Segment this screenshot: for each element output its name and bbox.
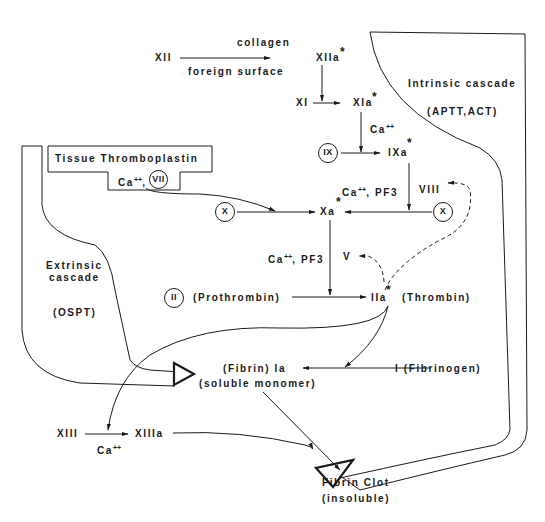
- tissue-cofactor: Ca++,: [118, 174, 147, 189]
- activated-marker: *: [372, 92, 377, 102]
- factor-viii: VIII: [419, 184, 440, 196]
- activated-marker: *: [336, 197, 341, 207]
- factor-x-left-circle: X: [215, 202, 235, 222]
- extrinsic-cascade-title: Extrinsiccascade: [46, 260, 103, 284]
- thrombin-label: (Thrombin): [402, 292, 471, 304]
- factor-xiii: XIII: [57, 428, 78, 440]
- factor-vii-circle: VII: [149, 170, 168, 189]
- collagen-label: collagen: [237, 37, 290, 49]
- factor-v: V: [343, 251, 351, 263]
- ca-pf3-cofactor-1: Ca++, PF3: [342, 184, 398, 199]
- activated-marker: *: [407, 138, 412, 148]
- fibrin-clot-label: Fibrin Clot: [322, 477, 390, 489]
- prothrombin-label: (Prothrombin): [193, 292, 280, 304]
- intrinsic-cascade-title: Intrinsic cascade: [408, 78, 516, 90]
- activated-marker: *: [386, 285, 391, 295]
- insoluble-label: (insoluble): [322, 493, 390, 505]
- xiii-calcium-cofactor: Ca++: [97, 442, 121, 457]
- foreign-surface-label: foreign surface: [188, 66, 284, 78]
- factor-xiia: XIIa: [316, 52, 340, 64]
- factor-xiiia: XIIIa: [135, 428, 164, 440]
- factor-xii: XII: [155, 52, 172, 64]
- intrinsic-cascade-test: (APTT,ACT): [427, 106, 498, 118]
- ca-pf3-cofactor-2: Ca++, PF3: [268, 251, 324, 266]
- fibrinogen-label: I (Fibrinogen): [395, 363, 481, 375]
- extrinsic-open-arrow: [174, 363, 194, 385]
- fibrin-ia-label: (Fibrin) Ia: [223, 363, 286, 375]
- factor-ii-circle: II: [164, 288, 184, 308]
- factor-ix-circle: IX: [318, 143, 338, 163]
- activated-marker: *: [340, 47, 345, 57]
- factor-xi: XI: [296, 97, 309, 109]
- factor-x-right-circle: X: [433, 202, 453, 222]
- factor-ixa: IXa: [388, 147, 408, 159]
- extrinsic-cascade-test: (OSPT): [53, 307, 97, 319]
- factor-xia: XIa: [353, 97, 373, 109]
- tissue-thromboplastin-label: Tissue Thromboplastin: [55, 153, 198, 165]
- calcium-cofactor: Ca++: [370, 121, 394, 136]
- soluble-monomer-label: (soluble monomer): [199, 378, 316, 390]
- factor-iia: IIa: [371, 292, 387, 304]
- factor-xa: Xa: [320, 206, 335, 218]
